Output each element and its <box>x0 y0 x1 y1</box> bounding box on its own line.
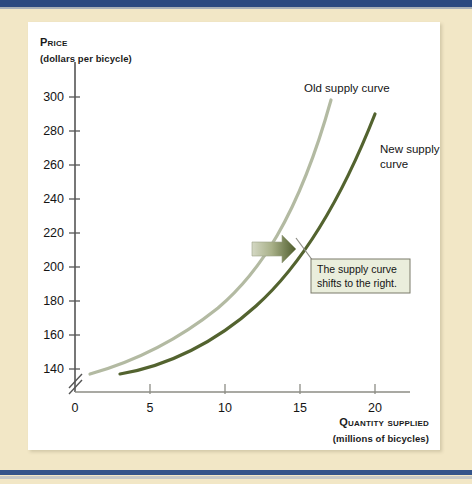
old-curve-label: Old supply curve <box>304 82 390 94</box>
new-curve-label-line2: curve <box>380 158 408 170</box>
y-tick-label-200: 200 <box>43 260 64 274</box>
new-supply-curve <box>120 114 375 374</box>
x-tick-label-0: 0 <box>72 401 79 415</box>
page-rule-bottom <box>0 470 472 475</box>
y-tick-label-260: 260 <box>43 158 64 172</box>
supply-curve-chart: 140 160 180 200 220 240 260 280 300 0 5 … <box>28 22 440 450</box>
page-rule-top <box>0 0 472 7</box>
page-rule-bottom-shadow <box>0 476 472 479</box>
y-tick-label-280: 280 <box>43 124 64 138</box>
callout-text-line1: The supply curve <box>317 263 397 275</box>
page-rule-top-shadow <box>0 7 472 9</box>
shift-callout-box: The supply curve shifts to the right. <box>311 259 410 293</box>
y-tick-label-140: 140 <box>43 362 64 376</box>
callout-text-line2: shifts to the right. <box>317 277 397 289</box>
x-axis-title: Quantity supplied <box>339 416 429 428</box>
x-tick-label-5: 5 <box>147 401 154 415</box>
x-tick-label-20: 20 <box>368 401 382 415</box>
y-tick-label-300: 300 <box>43 90 64 104</box>
x-tick-label-10: 10 <box>218 401 232 415</box>
y-tick-label-220: 220 <box>43 226 64 240</box>
x-axis-units: (millions of bicycles) <box>333 433 429 444</box>
old-supply-curve <box>90 100 331 374</box>
y-axis-units: (dollars per bicycle) <box>40 53 132 64</box>
y-tick-label-180: 180 <box>43 294 64 308</box>
figure-panel: 140 160 180 200 220 240 260 280 300 0 5 … <box>28 22 440 450</box>
y-axis-title: Price <box>40 36 68 48</box>
y-tick-label-240: 240 <box>43 192 64 206</box>
y-tick-label-160: 160 <box>43 328 64 342</box>
new-curve-label-line1: New supply <box>380 143 440 155</box>
x-tick-label-15: 15 <box>293 401 307 415</box>
